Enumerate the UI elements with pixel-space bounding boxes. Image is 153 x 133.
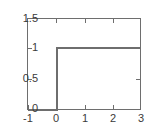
curve-segment-jump bbox=[56, 47, 58, 111]
x-tick-top bbox=[113, 19, 114, 23]
x-tick-bottom bbox=[113, 105, 114, 109]
step-function-chart: 1.5 1 0.5 0 -1 0 1 2 3 bbox=[0, 0, 153, 133]
curve-segment-upper bbox=[56, 47, 140, 49]
x-tick-label: 1 bbox=[82, 113, 88, 124]
plot-axes-frame bbox=[27, 18, 141, 110]
y-tick-label: 1.5 bbox=[23, 13, 38, 24]
x-tick-label: 2 bbox=[110, 113, 116, 124]
y-tick-label: 0.5 bbox=[23, 73, 38, 84]
x-tick-top bbox=[56, 19, 57, 23]
y-tick-right bbox=[136, 109, 140, 110]
x-tick-top bbox=[85, 19, 86, 23]
x-tick-label: -1 bbox=[23, 113, 33, 124]
x-tick-label: 3 bbox=[138, 113, 144, 124]
y-tick-label: 1 bbox=[32, 42, 38, 53]
x-tick-bottom bbox=[85, 105, 86, 109]
y-tick-right bbox=[136, 79, 140, 80]
x-tick-bottom bbox=[140, 105, 141, 109]
x-tick-label: 0 bbox=[53, 113, 59, 124]
